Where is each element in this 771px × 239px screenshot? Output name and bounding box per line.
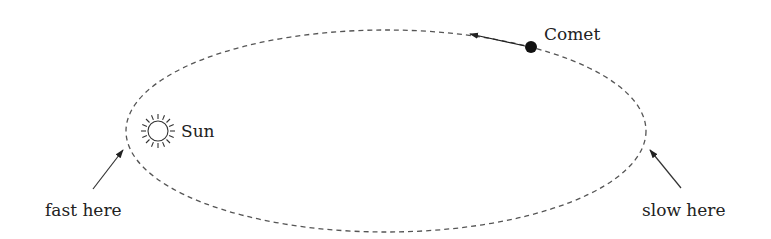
sun-icon — [141, 114, 175, 148]
sun-label: Sun — [181, 121, 215, 141]
comet-dot-icon — [525, 41, 537, 53]
slow-here-label: slow here — [642, 200, 726, 220]
comet-label: Comet — [544, 24, 600, 44]
comet-orbit-diagram: Sun Comet fast here slow here — [0, 0, 771, 239]
slow-here-arrow — [650, 150, 681, 188]
fast-here-label: fast here — [45, 200, 122, 220]
comet-velocity-arrow — [470, 34, 525, 46]
fast-here-arrow — [93, 150, 123, 189]
